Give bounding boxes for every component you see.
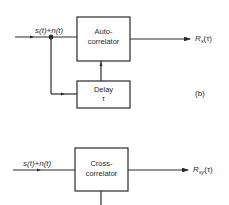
delay-arrow-icon [61, 93, 65, 96]
bottom-input-label: s(t)+n(t) [23, 159, 51, 168]
crosscorrelator-line2: correlator [75, 169, 128, 179]
autocorrelator-label: Auto- correlator [77, 27, 130, 47]
output-arg: (τ) [204, 34, 213, 43]
crosscorrelator-label: Cross- correlator [75, 159, 128, 179]
input-arrow-icon [30, 36, 34, 39]
output-arg-2: (τ) [204, 165, 213, 174]
delay-label: Delay τ [77, 85, 130, 102]
panel-label: (b) [195, 89, 205, 98]
delay-line1: Delay [77, 85, 130, 95]
delay-up-arrow-icon [100, 62, 103, 66]
top-input-label: s(t)+n(t) [35, 26, 63, 35]
delay-line2: τ [77, 95, 130, 102]
input-arrow-2-icon [37, 169, 41, 172]
autocorrelator-line2: correlator [77, 37, 130, 47]
crosscorrelator-line1: Cross- [75, 159, 128, 169]
autocorrelator-line1: Auto- [77, 27, 130, 37]
top-output-label: Rx(τ) [195, 34, 212, 46]
bottom-output-label: Rxy(τ) [193, 165, 213, 177]
